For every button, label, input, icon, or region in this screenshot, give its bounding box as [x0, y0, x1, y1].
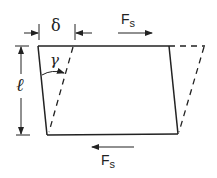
- gamma-arc: [42, 71, 64, 75]
- force-bottom-subscript: s: [110, 158, 116, 170]
- delta-label: δ: [51, 18, 61, 34]
- gamma-label: γ: [50, 53, 59, 68]
- deformed-block: [38, 46, 178, 135]
- undeformed-outline: [49, 46, 205, 132]
- force-top-subscript: s: [130, 17, 136, 29]
- force-bottom-label: Fs: [101, 153, 115, 167]
- force-top-label: Fs: [121, 12, 135, 26]
- force-top-symbol: F: [121, 11, 130, 27]
- force-bottom-symbol: F: [101, 152, 110, 168]
- length-label: ℓ: [16, 76, 24, 94]
